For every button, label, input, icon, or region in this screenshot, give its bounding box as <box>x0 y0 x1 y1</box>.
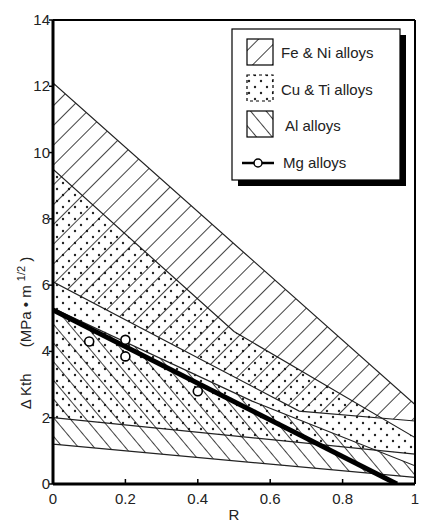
x-tick-label: 0.8 <box>332 490 353 507</box>
y-tick-label: 8 <box>42 210 50 227</box>
mg-data-point <box>121 335 130 344</box>
fe-ni-swatch <box>247 39 273 65</box>
y-ticks: 02468101214 <box>33 11 53 492</box>
y-tick-label: 6 <box>42 276 50 293</box>
y-axis-title-unit: (MPa • m <box>17 285 34 347</box>
x-tick-label: 1 <box>411 490 419 507</box>
y-tick-label: 12 <box>33 77 50 94</box>
y-tick-label: 4 <box>42 342 50 359</box>
al-swatch <box>247 111 273 137</box>
x-tick-label: 0.4 <box>187 490 208 507</box>
x-tick-label: 0.6 <box>260 490 281 507</box>
mg-data-point <box>193 387 202 396</box>
y-axis-title-exp: 1/2 <box>15 266 27 281</box>
mg-marker-icon <box>254 159 262 167</box>
svg-text:Δ Kth (MPa • m 1/2: Δ Kth (MPa • m 1/2 ) <box>11 257 34 410</box>
chart: 00.20.40.60.81 02468101214 R Δ Kth (MPa … <box>0 0 433 527</box>
mg-data-point <box>85 337 94 346</box>
cu-ti-swatch <box>247 75 273 101</box>
y-tick-label: 14 <box>33 11 50 28</box>
y-axis-title-main: Δ Kth <box>17 373 34 409</box>
x-tick-label: 0.2 <box>115 490 136 507</box>
y-axis-title-close: ) <box>17 257 34 262</box>
mg-data-point <box>121 352 130 361</box>
legend: Fe & Ni alloys Cu & Ti alloys Al alloys … <box>232 29 406 186</box>
y-axis-title: Δ Kth (MPa • m 1/2 ) <box>11 257 34 410</box>
x-axis-title: R <box>229 506 240 523</box>
y-tick-label: 2 <box>42 409 50 426</box>
x-tick-label: 0 <box>49 490 57 507</box>
y-tick-label: 0 <box>42 475 50 492</box>
svg-text:Fe & Ni alloys: Fe & Ni alloys <box>281 44 374 61</box>
svg-text:Cu & Ti alloys: Cu & Ti alloys <box>281 81 373 98</box>
y-tick-label: 10 <box>33 144 50 161</box>
svg-text:Mg alloys: Mg alloys <box>283 154 346 171</box>
svg-text:Al alloys: Al alloys <box>285 117 341 134</box>
